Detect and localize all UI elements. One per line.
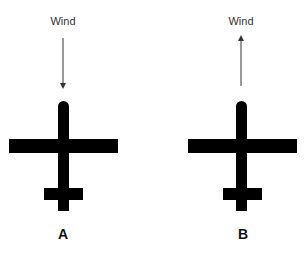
fuselage-tail-end bbox=[236, 150, 247, 211]
tailplane bbox=[223, 188, 262, 200]
fuselage-tail-end bbox=[58, 150, 69, 211]
airplane-a-icon bbox=[9, 101, 118, 211]
panel-label-a: A bbox=[48, 226, 78, 242]
tailplane bbox=[44, 188, 83, 200]
panel-a bbox=[9, 38, 118, 211]
diagram-canvas bbox=[0, 0, 307, 260]
wing bbox=[188, 139, 297, 153]
panel-label-b: B bbox=[228, 226, 258, 242]
wind-label-a: Wind bbox=[33, 15, 93, 27]
wind-label-b: Wind bbox=[211, 15, 271, 27]
panel-b bbox=[188, 38, 297, 211]
wing bbox=[9, 139, 118, 153]
airplane-b-icon bbox=[188, 101, 297, 211]
